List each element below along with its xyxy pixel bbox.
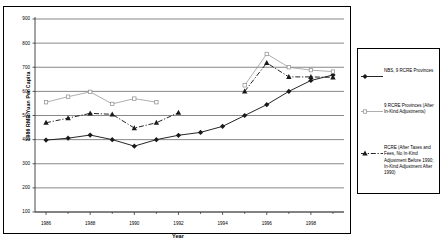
series-line bbox=[245, 54, 333, 85]
data-point-marker bbox=[264, 102, 269, 107]
legend-item-label: NBS, 9 RCRE Provinces bbox=[384, 67, 442, 74]
data-point-marker bbox=[363, 110, 366, 113]
series-3 bbox=[43, 60, 335, 130]
data-point-marker bbox=[176, 110, 181, 115]
data-point-marker bbox=[309, 68, 312, 71]
data-point-marker bbox=[43, 138, 48, 143]
data-point-marker bbox=[66, 95, 69, 98]
data-point-marker bbox=[88, 132, 93, 137]
data-point-marker bbox=[110, 111, 115, 116]
data-point-marker bbox=[111, 102, 114, 105]
data-point-marker bbox=[287, 66, 290, 69]
data-point-marker bbox=[154, 137, 159, 142]
legend-diamond-icon bbox=[360, 67, 384, 76]
data-point-marker bbox=[264, 60, 269, 65]
legend-item-label: RCRE (After Taxes and Fees, No In-Kind A… bbox=[384, 144, 440, 176]
data-point-marker bbox=[286, 74, 291, 79]
plot-canvas bbox=[4, 7, 350, 233]
data-point-marker bbox=[362, 74, 367, 79]
chart-frame: 1986 RMB Yuan Per Capita Year 9008007006… bbox=[3, 6, 351, 234]
legend: NBS, 9 RCRE Provinces9 RCRE Provinces (A… bbox=[357, 48, 440, 194]
data-point-marker bbox=[87, 110, 92, 115]
series-line bbox=[46, 92, 156, 104]
data-point-marker bbox=[110, 137, 115, 142]
data-point-marker bbox=[242, 113, 247, 118]
legend-triangle-icon bbox=[360, 144, 384, 153]
data-point-marker bbox=[176, 133, 181, 138]
legend-item-3[interactable]: RCRE (After Taxes and Fees, No In-Kind A… bbox=[360, 144, 440, 176]
data-point-marker bbox=[88, 90, 91, 93]
data-point-marker bbox=[220, 124, 225, 129]
data-point-marker bbox=[286, 89, 291, 94]
legend-item-label: 9 RCRE Provinces (After In-Kind Adjustme… bbox=[384, 102, 440, 116]
series-1 bbox=[43, 72, 335, 148]
legend-item-1[interactable]: NBS, 9 RCRE Provinces bbox=[360, 67, 442, 76]
data-point-marker bbox=[331, 70, 334, 73]
data-point-marker bbox=[198, 130, 203, 135]
legend-item-2[interactable]: 9 RCRE Provinces (After In-Kind Adjustme… bbox=[360, 102, 440, 116]
chart-screenshot: 1986 RMB Yuan Per Capita Year 9008007006… bbox=[0, 0, 442, 245]
x-axis-title: Year bbox=[4, 233, 352, 239]
data-point-marker bbox=[44, 101, 47, 104]
data-point-marker bbox=[243, 84, 246, 87]
data-point-marker bbox=[133, 97, 136, 100]
data-point-marker bbox=[265, 52, 268, 55]
data-point-marker bbox=[132, 144, 137, 149]
data-point-marker bbox=[66, 136, 71, 141]
legend-square-icon bbox=[360, 102, 384, 111]
data-point-marker bbox=[155, 101, 158, 104]
